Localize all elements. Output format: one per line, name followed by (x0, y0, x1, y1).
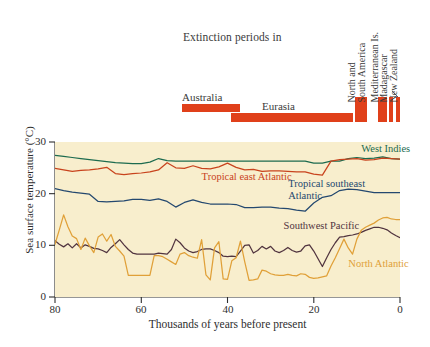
extinction-label-eurasia: Eurasia (262, 100, 295, 112)
series-label-tropical-southeast-atlantic: Tropical southeastAtlantic (288, 178, 365, 201)
extinction-label-australia: Australia (182, 91, 222, 103)
extinction-bar-australia (182, 104, 240, 112)
extinction-periods-panel: Extinction periods in Australia Eurasia … (0, 0, 430, 128)
x-tick-20: 20 (302, 303, 326, 315)
series-label-southwest-pacific: Southwest Pacific (284, 220, 360, 231)
sea-surface-temperature-chart: West Indies Tropical east Atlantic Tropi… (0, 128, 430, 347)
series-label-west-indies: West Indies (361, 143, 410, 154)
series-label-north-atlantic: North Atlantic (348, 258, 408, 269)
x-tick-40: 40 (216, 303, 240, 315)
extinction-label-new-zealand: New Zealand (389, 49, 400, 103)
y-axis-title: Sea surface temperature (°C) (23, 115, 35, 265)
x-tick-0: 0 (388, 303, 412, 315)
extinction-label-north-and-south-america-line2: South America (357, 43, 368, 103)
x-tick-80: 80 (43, 303, 67, 315)
y-tick-0: 0 (24, 290, 46, 302)
extinction-panel-title: Extinction periods in (183, 31, 282, 43)
plot-area: West Indies Tropical east Atlantic Tropi… (55, 142, 400, 297)
x-axis-title: Thousands of years before present (55, 318, 400, 330)
extinction-bar-eurasia (231, 113, 353, 122)
series-label-tropical-east-atlantic: Tropical east Atlantic (202, 171, 292, 182)
x-tick-60: 60 (129, 303, 153, 315)
